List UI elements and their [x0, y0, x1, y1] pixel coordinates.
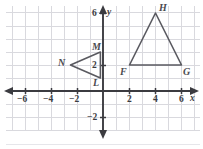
y-axis-label: y — [107, 8, 111, 18]
y-tick-label-6: 6 — [92, 9, 97, 19]
x-axis-label: x — [190, 94, 195, 104]
x-tick-label-neg2: −2 — [69, 95, 79, 105]
vertex-label-N: N — [58, 58, 65, 68]
x-tick-label-neg4: −4 — [43, 95, 53, 105]
x-tick-label-neg6: −6 — [17, 95, 27, 105]
y-tick-label-neg2: −2 — [87, 113, 97, 123]
coordinate-plane-svg — [0, 0, 203, 149]
x-tick-label-6: 6 — [179, 95, 184, 105]
figure-background — [0, 0, 203, 149]
y-tick-label-2: 2 — [92, 61, 97, 71]
x-tick-label-2: 2 — [127, 95, 132, 105]
vertex-label-H: H — [159, 3, 167, 13]
vertex-label-M: M — [92, 42, 101, 52]
coordinate-plane-figure: y x −6 −4 −2 2 4 6 6 2 −2 M N L F G H — [0, 0, 203, 149]
vertex-label-L: L — [93, 78, 99, 88]
vertex-label-G: G — [183, 67, 190, 77]
x-tick-label-4: 4 — [153, 95, 158, 105]
vertex-label-F: F — [120, 67, 127, 77]
